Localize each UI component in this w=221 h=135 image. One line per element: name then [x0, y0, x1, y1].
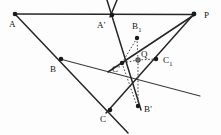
label-Q: Q — [141, 50, 148, 59]
dashed-Cprime-to-Bprime — [122, 63, 137, 106]
dashed-Q-to-B1 — [137, 38, 138, 60]
label-B: B — [50, 65, 56, 74]
point-Bprime — [136, 104, 140, 108]
point-Q — [136, 58, 141, 63]
point-C — [108, 108, 113, 113]
label-A-prime: A' — [97, 21, 106, 30]
point-Aprime — [110, 13, 115, 18]
point-Cprime — [120, 61, 124, 65]
label-B-prime: B' — [144, 105, 152, 114]
label-C-one: C1 — [163, 56, 172, 67]
geometry-figure: A A' P B1 B Q C' C1 B' C — [0, 0, 221, 135]
line-A-Aprime-P — [15, 14, 194, 15]
dashed-B1-to-Cprime — [122, 38, 137, 63]
point-A — [13, 12, 18, 17]
line-B-C1-extended — [60, 59, 200, 96]
point-B1 — [135, 36, 139, 40]
label-A: A — [9, 20, 16, 29]
label-B-one: B1 — [132, 22, 141, 33]
geometry-canvas — [0, 0, 221, 135]
point-C1 — [154, 57, 159, 62]
label-C-prime: C' — [112, 65, 120, 74]
label-C-one-subscript: 1 — [169, 60, 172, 67]
label-C: C — [100, 115, 106, 124]
point-P — [192, 12, 197, 17]
label-P: P — [204, 11, 209, 20]
label-B-one-subscript: 1 — [138, 26, 141, 33]
point-B — [59, 57, 64, 62]
